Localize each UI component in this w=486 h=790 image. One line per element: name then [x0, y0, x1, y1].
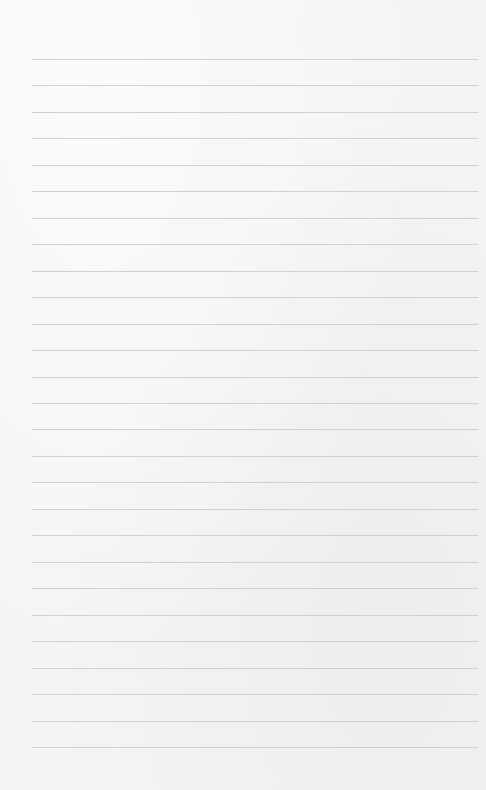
ruled-line: [32, 165, 478, 166]
ruled-line: [32, 85, 478, 86]
ruled-line: [32, 509, 478, 510]
ruled-line: [32, 641, 478, 642]
ruled-line: [32, 562, 478, 563]
ruled-line: [32, 615, 478, 616]
ruled-line: [32, 112, 478, 113]
ruled-line: [32, 324, 478, 325]
ruled-line: [32, 403, 478, 404]
ruled-line: [32, 456, 478, 457]
ruled-line: [32, 59, 478, 60]
ruled-line: [32, 138, 478, 139]
ruled-line: [32, 668, 478, 669]
ruled-line: [32, 482, 478, 483]
ruled-line: [32, 218, 478, 219]
ruled-line: [32, 535, 478, 536]
ruled-line: [32, 429, 478, 430]
lined-paper: [0, 0, 486, 790]
ruled-line: [32, 588, 478, 589]
ruled-line: [32, 297, 478, 298]
ruled-line: [32, 694, 478, 695]
ruled-line: [32, 377, 478, 378]
ruled-line: [32, 721, 478, 722]
ruled-line: [32, 191, 478, 192]
ruled-line: [32, 747, 478, 748]
ruled-line: [32, 271, 478, 272]
ruled-line: [32, 244, 478, 245]
ruled-line: [32, 350, 478, 351]
